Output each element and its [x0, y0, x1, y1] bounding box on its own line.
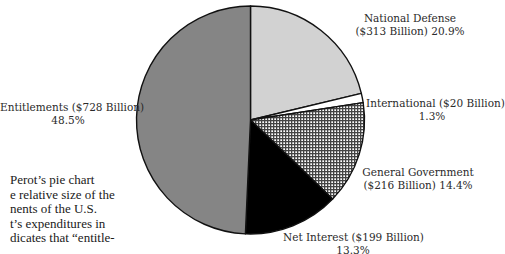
label-entitlements: Entitlements ($728 Billion) 48.5%	[0, 101, 136, 127]
caption-line: t’s expenditures in	[0, 217, 160, 232]
pie-slices	[136, 6, 364, 234]
caption-line: e relative size of the	[0, 188, 160, 203]
label-line: Entitlements ($728 Billion)	[0, 101, 136, 114]
label-line: ($313 Billion) 20.9%	[335, 25, 485, 38]
label-line: 48.5%	[0, 114, 136, 127]
label-line: National Defense	[335, 12, 485, 25]
label-national-defense: National Defense ($313 Billion) 20.9%	[335, 12, 485, 38]
label-line: Net Interest ($199 Billion)	[283, 231, 423, 244]
label-international: International ($20 Billion) 1.3%	[366, 97, 498, 123]
caption-line: Perot’s pie chart	[0, 173, 160, 188]
label-general-government: General Government ($216 Billion) 14.4%	[343, 166, 493, 192]
label-line: 13.3%	[283, 244, 423, 254]
label-line: 1.3%	[366, 110, 498, 123]
label-line: General Government	[343, 166, 493, 179]
caption-line: dicates that “entitle-	[0, 231, 160, 246]
label-net-interest: Net Interest ($199 Billion) 13.3%	[283, 231, 423, 254]
label-line: International ($20 Billion)	[366, 97, 498, 110]
caption-line: nents of the U.S.	[0, 202, 160, 217]
figure-caption: Perot’s pie chart e relative size of the…	[0, 173, 160, 246]
label-line: ($216 Billion) 14.4%	[343, 179, 493, 192]
